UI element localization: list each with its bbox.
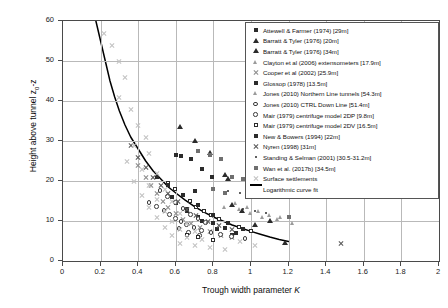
legend-label: Cooper et al (2002) [25.9m]	[263, 69, 338, 76]
figure-container: Height above tunnel z0-z Trough width pa…	[0, 0, 448, 308]
legend-item[interactable]: Barratt & Tyler (1976) [20m]	[249, 36, 435, 47]
data-point-cross-light	[253, 176, 259, 182]
legend-item[interactable]: Wan et al. (2017b) [34.5m]	[249, 163, 435, 174]
data-point-circle-open	[253, 102, 258, 107]
legend-item[interactable]: Cooper et al (2002) [25.9m]	[249, 67, 435, 78]
data-point-triangle-filled	[253, 38, 259, 43]
y-axis-tick-label: 50	[28, 55, 54, 64]
x-axis-tick	[212, 262, 213, 266]
legend-item[interactable]: Mair (1979) centrifuge model 2DV [16.5m]	[249, 120, 435, 131]
legend-marker	[249, 36, 263, 46]
legend-item[interactable]: New & Bowers (1994) [22m]	[249, 131, 435, 142]
y-axis-tick-label: 40	[28, 95, 54, 104]
x-axis-tick	[250, 262, 251, 266]
legend-marker	[249, 142, 263, 152]
y-axis-tick-label: 20	[28, 175, 54, 184]
legend-label: Attewell & Farmer (1974) [29m]	[263, 27, 348, 34]
legend-item[interactable]: Standing & Selman (2001) [30.5-31.2m]	[249, 152, 435, 163]
legend-item[interactable]: Nyren (1998) [31m]	[249, 142, 435, 153]
legend-marker	[249, 25, 263, 35]
legend-label: Surface settlements	[263, 175, 317, 182]
legend-item[interactable]: Glossop (1978) [13.5m]	[249, 78, 435, 89]
legend-marker	[249, 110, 263, 120]
x-axis-tick-label: 1	[230, 267, 270, 276]
legend-label: Barratt & Tyler (1976) [20m]	[263, 37, 339, 44]
x-axis-tick	[62, 262, 63, 266]
x-axis-tick	[175, 262, 176, 266]
legend-item[interactable]: Barratt & Tyler (1976) [34m]	[249, 46, 435, 57]
legend-label: Mair (1979) centrifuge model 2DP [9.8m]	[263, 112, 374, 119]
data-point-square-filled	[254, 28, 258, 32]
legend-marker	[249, 99, 263, 109]
data-point-triangle-gray	[253, 60, 257, 64]
y-axis-tick	[58, 220, 62, 221]
x-axis-tick-label: 2	[418, 267, 448, 276]
y-axis-tick-label: 10	[28, 215, 54, 224]
x-axis-tick-label: 0.4	[117, 267, 157, 276]
legend-label: Barratt & Tyler (1976) [34m]	[263, 48, 339, 55]
data-point-square-gray	[254, 166, 258, 170]
data-point-square-open	[254, 123, 258, 127]
x-axis-label: Trough width parameter K	[62, 285, 440, 295]
y-axis-tick-label: 60	[28, 15, 54, 24]
data-point-cross-dark	[253, 144, 259, 150]
x-axis-tick-label: 0.2	[80, 267, 120, 276]
legend-item[interactable]: Attewell & Farmer (1974) [29m]	[249, 25, 435, 36]
x-axis-tick-label: 0.6	[155, 267, 195, 276]
data-point-dot	[255, 156, 257, 158]
x-axis-tick	[438, 262, 439, 266]
x-axis-tick	[137, 262, 138, 266]
legend-marker	[249, 121, 263, 131]
legend-marker	[249, 152, 263, 162]
legend-marker	[249, 174, 263, 184]
x-axis-tick	[100, 262, 101, 266]
legend-label: Logarithmic curve fit	[263, 186, 318, 193]
legend-label: Mair (1979) centrifuge model 2DV [16.5m]	[263, 122, 377, 129]
legend-label: Clayton et al (2006) extensometers [17.9…	[263, 59, 381, 66]
y-axis-tick-label: 0	[28, 255, 54, 264]
x-axis-tick-label: 1.6	[343, 267, 383, 276]
legend-marker	[249, 89, 263, 99]
legend-label: New & Bowers (1994) [22m]	[263, 133, 340, 140]
x-axis-tick	[400, 262, 401, 266]
legend-label: Jones (2010) CTRL Down Line [51.4m]	[263, 101, 369, 108]
x-axis-tick	[363, 262, 364, 266]
legend-item[interactable]: Logarithmic curve fit	[249, 184, 435, 195]
data-point-cross-gray	[253, 70, 259, 76]
data-point-square-filled	[254, 81, 258, 85]
legend-item[interactable]: Surface settlements	[249, 173, 435, 184]
legend-marker	[249, 131, 263, 141]
legend-marker	[249, 184, 263, 194]
legend-marker	[249, 57, 263, 67]
x-axis-tick-label: 1.4	[305, 267, 345, 276]
y-axis-tick	[58, 20, 62, 21]
y-axis-tick	[58, 140, 62, 141]
legend-label: Wan et al. (2017b) [34.5m]	[263, 165, 336, 172]
legend-label: Jones (2010) Northern Line tunnels [54.3…	[263, 90, 382, 97]
x-axis-tick	[288, 262, 289, 266]
x-axis-tick	[325, 262, 326, 266]
legend-label: Glossop (1978) [13.5m]	[263, 80, 327, 87]
legend-line-swatch	[250, 184, 262, 186]
x-axis-tick-label: 0	[42, 267, 82, 276]
y-axis-tick-label: 30	[28, 135, 54, 144]
legend-marker	[249, 163, 263, 173]
x-axis-tick-label: 1.8	[380, 267, 420, 276]
x-axis-tick-label: 1.2	[268, 267, 308, 276]
legend-item[interactable]: Jones (2010) CTRL Down Line [51.4m]	[249, 99, 435, 110]
legend-item[interactable]: Clayton et al (2006) extensometers [17.9…	[249, 57, 435, 68]
gridline-horizontal	[63, 221, 439, 222]
y-axis-tick	[58, 260, 62, 261]
y-axis-tick	[58, 180, 62, 181]
y-axis-tick	[58, 100, 62, 101]
data-point-square-filled	[254, 134, 258, 138]
legend-marker	[249, 46, 263, 56]
legend-label: Standing & Selman (2001) [30.5-31.2m]	[263, 154, 371, 161]
legend-item[interactable]: Jones (2010) Northern Line tunnels [54.3…	[249, 89, 435, 100]
legend: Attewell & Farmer (1974) [29m]Barratt & …	[245, 22, 439, 199]
y-axis-tick	[58, 60, 62, 61]
legend-item[interactable]: Mair (1979) centrifuge model 2DP [9.8m]	[249, 110, 435, 121]
data-point-circle-open	[253, 112, 258, 117]
x-axis-tick-label: 0.8	[192, 267, 232, 276]
legend-marker	[249, 68, 263, 78]
